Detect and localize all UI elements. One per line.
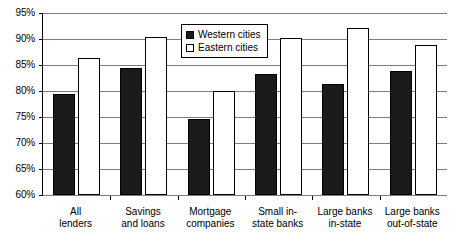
legend-swatch-icon — [186, 44, 194, 52]
bar-group — [110, 13, 177, 195]
bar-western — [322, 84, 344, 195]
x-category-label-line: and loans — [110, 218, 175, 230]
y-tickmark — [39, 195, 43, 196]
y-tick-label: 90% — [16, 34, 35, 44]
x-category-label-line: Mortgage — [178, 206, 243, 218]
legend-swatch-icon — [186, 31, 194, 39]
bar-western — [390, 71, 412, 195]
y-tick-label: 75% — [16, 112, 35, 122]
bar-eastern — [145, 37, 167, 195]
bar-western — [120, 68, 142, 195]
bar-eastern — [347, 28, 369, 195]
x-category-label-line: lenders — [43, 218, 108, 230]
x-category-label-line: Small in- — [245, 206, 310, 218]
x-category-label: Small in-state banks — [244, 200, 311, 245]
legend-label: Eastern cities — [198, 41, 258, 54]
x-category-label-line: Large banks — [312, 206, 377, 218]
bar-western — [53, 94, 75, 195]
bar-group — [312, 13, 379, 195]
legend-entry: Eastern cities — [186, 41, 261, 54]
bar-eastern — [78, 58, 100, 195]
chart-legend: Western citiesEastern cities — [181, 24, 268, 58]
y-tick-label: 80% — [16, 86, 35, 96]
y-tick-label: 85% — [16, 60, 35, 70]
bar-eastern — [213, 91, 235, 195]
y-tick-label: 70% — [16, 138, 35, 148]
bar-group — [380, 13, 447, 195]
x-category-label-line: All — [43, 206, 108, 218]
x-category-label: Large banksin-state — [311, 200, 378, 245]
legend-label: Western cities — [198, 28, 261, 41]
x-category-label-line: Savings — [110, 206, 175, 218]
x-category-label-line: in-state — [312, 218, 377, 230]
bar-western — [255, 74, 277, 195]
x-category-label: Alllenders — [42, 200, 109, 245]
bar-group — [43, 13, 110, 195]
y-tick-label: 60% — [16, 190, 35, 200]
x-category-label: Mortgagecompanies — [177, 200, 244, 245]
bar-western — [188, 119, 210, 195]
grouped-bar-chart: 95%90%85%80%75%70%65%60% Western citiesE… — [0, 0, 460, 251]
x-category-label-line: Large banks — [380, 206, 445, 218]
y-tick-label: 95% — [16, 8, 35, 18]
x-category-label: Savingsand loans — [109, 200, 176, 245]
x-category-label-line: state banks — [245, 218, 310, 230]
x-axis-category-labels: AlllendersSavingsand loansMortgagecompan… — [42, 200, 446, 245]
y-tick-label: 65% — [16, 164, 35, 174]
bar-eastern — [415, 45, 437, 195]
x-category-label: Large banksout-of-state — [379, 200, 446, 245]
x-category-label-line: companies — [178, 218, 243, 230]
bar-eastern — [280, 38, 302, 195]
x-category-label-line: out-of-state — [380, 218, 445, 230]
y-axis: 95%90%85%80%75%70%65%60% — [0, 0, 42, 205]
legend-entry: Western cities — [186, 28, 261, 41]
